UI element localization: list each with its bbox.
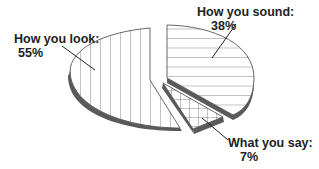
- label-sound-pct: 38%: [197, 19, 294, 33]
- label-how-you-look: How you look: 55%: [14, 32, 99, 60]
- label-look-pct: 55%: [14, 46, 99, 60]
- label-how-you-sound: How you sound: 38%: [197, 5, 294, 33]
- label-say-pct: 7%: [228, 150, 313, 164]
- label-sound-name: How you sound:: [197, 5, 294, 19]
- label-what-you-say: What you say: 7%: [228, 136, 313, 164]
- label-look-name: How you look:: [14, 32, 99, 46]
- label-say-name: What you say:: [228, 136, 313, 150]
